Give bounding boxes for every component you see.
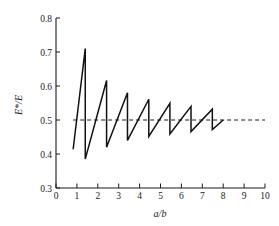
x-tick-label-9: 9 <box>242 191 247 201</box>
y-axis-tick-labels: 0.8 0.7 0.6 0.5 0.4 0.3 <box>40 14 52 194</box>
series-line-sawtooth <box>73 49 223 160</box>
line-chart: 0.8 0.7 0.6 0.5 0.4 0.3 0 1 2 3 <box>0 0 279 226</box>
x-tick-label-5: 5 <box>158 191 163 201</box>
y-tick-label-0.8: 0.8 <box>40 14 52 24</box>
y-axis-ticks <box>56 18 60 188</box>
x-axis-tick-labels: 0 1 2 3 4 5 6 7 8 9 10 <box>54 191 270 201</box>
y-tick-label-0.4: 0.4 <box>40 150 52 160</box>
y-tick-label-0.3: 0.3 <box>40 184 52 194</box>
x-tick-label-3: 3 <box>116 191 121 201</box>
x-tick-label-7: 7 <box>200 191 205 201</box>
x-axis-title: a/b <box>154 208 167 219</box>
y-axis-title: E*/E <box>13 95 24 116</box>
x-tick-label-10: 10 <box>260 191 270 201</box>
x-tick-label-1: 1 <box>75 191 80 201</box>
x-tick-label-6: 6 <box>179 191 184 201</box>
y-tick-label-0.5: 0.5 <box>40 116 52 126</box>
x-tick-label-2: 2 <box>95 191 100 201</box>
chart-container: 0.8 0.7 0.6 0.5 0.4 0.3 0 1 2 3 <box>0 0 279 226</box>
y-tick-label-0.6: 0.6 <box>40 82 52 92</box>
x-tick-label-0: 0 <box>54 191 59 201</box>
x-tick-label-8: 8 <box>221 191 226 201</box>
x-axis-ticks <box>56 184 265 189</box>
y-tick-label-0.7: 0.7 <box>40 48 52 58</box>
x-tick-label-4: 4 <box>137 191 142 201</box>
